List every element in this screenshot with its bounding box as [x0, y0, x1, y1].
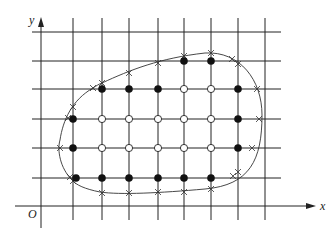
- y-axis-arrow-icon: [38, 17, 44, 27]
- hollow-node-icon: [154, 115, 161, 122]
- filled-node-icon: [125, 174, 133, 182]
- hollow-node-icon: [207, 144, 214, 151]
- hollow-node-icon: [207, 115, 214, 122]
- axes: x y O: [15, 13, 326, 228]
- filled-node-icon: [154, 174, 162, 182]
- filled-node-icon: [180, 174, 188, 182]
- hollow-node-icon: [98, 115, 105, 122]
- hollow-node-icon: [207, 85, 214, 92]
- filled-node-icon: [207, 57, 215, 65]
- hollow-node-icon: [180, 115, 187, 122]
- filled-node-icon: [69, 115, 77, 123]
- filled-node-icon: [234, 115, 242, 123]
- cross-icon: [67, 174, 73, 180]
- hollow-node-icon: [154, 144, 161, 151]
- filled-node-icon: [234, 85, 242, 93]
- hollow-node-icon: [180, 85, 187, 92]
- filled-node-icon: [180, 57, 188, 65]
- filled-node-icon: [207, 174, 215, 182]
- hollow-node-icon: [98, 144, 105, 151]
- hollow-node-icon: [180, 144, 187, 151]
- origin-label: O: [28, 207, 37, 221]
- filled-node-icon: [125, 85, 133, 93]
- boundary-grid-diagram: x y O: [0, 0, 335, 238]
- hollow-node-icon: [125, 144, 132, 151]
- cross-markers: [57, 50, 262, 196]
- filled-node-icon: [98, 174, 106, 182]
- x-axis-label: x: [319, 199, 326, 213]
- filled-node-icon: [98, 85, 106, 93]
- filled-node-icon: [72, 174, 80, 182]
- hollow-node-icon: [125, 115, 132, 122]
- x-axis-arrow-icon: [306, 203, 316, 209]
- filled-node-icon: [69, 144, 77, 152]
- filled-node-icon: [234, 144, 242, 152]
- cross-icon: [90, 85, 96, 91]
- boundary-curve: [59, 53, 262, 194]
- y-axis-label: y: [28, 13, 35, 27]
- filled-node-icon: [154, 85, 162, 93]
